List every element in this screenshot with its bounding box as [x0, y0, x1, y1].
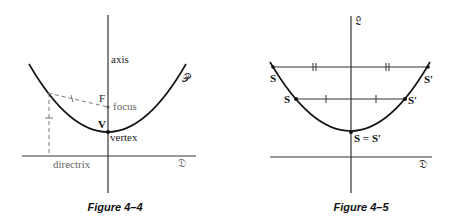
point-s-top-right — [426, 65, 430, 69]
parabola-label: 𝒫 — [182, 72, 192, 84]
directrix-line-label: 𝔇 — [419, 158, 427, 170]
label-s-top-right: S′ — [424, 73, 433, 85]
figure-4-4: axis 𝒫 F focus V vertex directrix 𝔇 Figu… — [22, 15, 196, 213]
vertex-label: vertex — [110, 131, 138, 143]
figure-caption: Figure 4–4 — [87, 201, 142, 213]
directrix-label: directrix — [53, 158, 91, 170]
vertex-label: S = S′ — [354, 132, 381, 144]
label-s-top-left: S — [270, 72, 276, 84]
label-s-mid-right: S′ — [408, 94, 417, 106]
label-s-mid-left: S — [284, 93, 290, 105]
axis-line-label: 𝔏 — [355, 15, 362, 27]
parabola-curve — [270, 62, 430, 131]
focus-letter: F — [99, 92, 105, 104]
focus-point — [106, 105, 109, 108]
axis-label: axis — [111, 53, 129, 65]
vertex-point — [349, 130, 353, 134]
point-s-mid-right — [403, 97, 407, 101]
figure-caption: Figure 4–5 — [333, 201, 389, 213]
figures-canvas: axis 𝒫 F focus V vertex directrix 𝔇 Figu… — [0, 0, 452, 218]
directrix-line-label: 𝔇 — [178, 157, 186, 169]
focus-label: focus — [113, 100, 137, 112]
point-s-mid-left — [294, 97, 298, 101]
point-s-top-left — [271, 65, 275, 69]
figure-4-5: 𝔏 S S′ S S′ S = S′ 𝔇 Figure 4–5 — [270, 15, 433, 213]
vertex-letter: V — [98, 118, 106, 130]
